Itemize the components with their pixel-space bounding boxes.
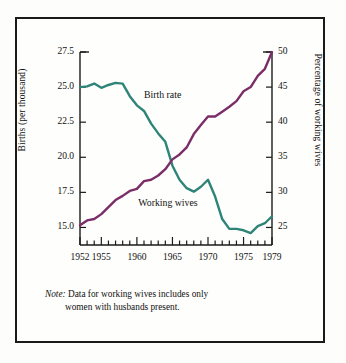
x-tick-label-1970: 1970 — [188, 252, 228, 262]
y-tick-label-right-4: 30 — [278, 186, 312, 196]
x-tick-label-1979: 1979 — [252, 252, 292, 262]
figure-note: Note: Data for working wives includes on… — [45, 288, 295, 315]
note-line-2: women with husbands present. — [65, 301, 295, 314]
series-label-birth-rate: Birth rate — [144, 89, 181, 100]
y-tick-label-right-2: 40 — [278, 116, 312, 126]
axes-group — [80, 52, 272, 245]
y-tick-label-left-4: 17.5 — [40, 186, 74, 196]
y-axis-right-label: Percentage of working wives — [313, 35, 323, 185]
y-tick-label-right-1: 45 — [278, 81, 312, 91]
x-tick-label-1960: 1960 — [117, 252, 157, 262]
series-label-working-wives: Working wives — [138, 197, 197, 208]
note-line-1: Data for working wives includes only — [66, 289, 209, 299]
y-tick-label-left-3: 20.0 — [40, 151, 74, 161]
y-axis-left-label: Births (per thousand) — [17, 40, 27, 180]
y-tick-label-left-1: 25.0 — [40, 81, 74, 91]
y-tick-label-right-3: 35 — [278, 151, 312, 161]
x-tick-label-1955: 1955 — [81, 252, 121, 262]
x-tick-label-1965: 1965 — [152, 252, 192, 262]
y-tick-label-right-0: 50 — [278, 46, 312, 56]
y-tick-label-right-5: 25 — [278, 221, 312, 231]
note-keyword: Note: — [45, 289, 66, 299]
y-tick-label-left-0: 27.5 — [40, 46, 74, 56]
figure-container: Births (per thousand) Percentage of work… — [0, 0, 346, 363]
y-tick-label-left-2: 22.5 — [40, 116, 74, 126]
y-tick-label-left-5: 15.0 — [40, 221, 74, 231]
